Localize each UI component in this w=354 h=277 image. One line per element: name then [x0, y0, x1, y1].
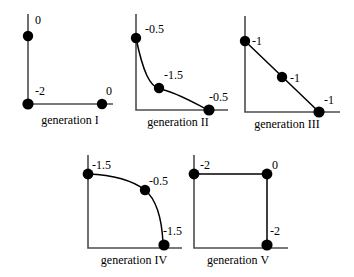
- figure-container: 0 -2 0 generation I -0.5 -1.5 -0.5 gener…: [0, 0, 354, 277]
- panel-generation-5: -2 0 -2 generation V: [189, 155, 288, 267]
- caption-generation-2: generation II: [147, 115, 209, 129]
- value-label-right-generation-2: -0.5: [209, 90, 228, 104]
- node-mid-generation-2: [154, 83, 164, 93]
- value-label-right-generation-5: -2: [270, 224, 280, 238]
- generations-figure: 0 -2 0 generation I -0.5 -1.5 -0.5 gener…: [0, 0, 354, 277]
- node-right-generation-5: [261, 239, 272, 250]
- value-label-mid-generation-3: -1: [290, 71, 300, 85]
- node-right-generation-1: [97, 99, 107, 109]
- node-top-generation-5: [189, 169, 200, 180]
- panel-generation-2: -0.5 -1.5 -0.5 generation II: [131, 14, 228, 129]
- value-label-top-generation-4: -1.5: [92, 158, 111, 172]
- value-label-mid-generation-2: -1.5: [164, 68, 183, 82]
- node-mid-generation-3: [277, 72, 287, 82]
- value-label-mid-generation-4: -0.5: [149, 174, 168, 188]
- value-label-origin-generation-1: -2: [35, 84, 45, 98]
- caption-generation-5: generation V: [207, 253, 269, 267]
- value-label-top-generation-1: 0: [35, 13, 41, 27]
- caption-generation-1: generation I: [41, 113, 99, 127]
- panel-generation-4: -1.5 -0.5 -1.5 generation IV: [83, 155, 182, 267]
- node-corner-generation-5: [262, 169, 273, 180]
- node-right-generation-3: [313, 106, 324, 117]
- panel-generation-1: 0 -2 0 generation I: [22, 13, 113, 127]
- node-top-generation-3: [240, 36, 250, 46]
- value-label-top-generation-5: -2: [200, 158, 210, 172]
- value-label-right-generation-1: 0: [106, 84, 112, 98]
- node-origin-generation-1: [22, 98, 33, 109]
- rectangle-path-generation-5: [194, 174, 267, 245]
- value-label-top-generation-2: -0.5: [145, 22, 164, 36]
- node-right-generation-4: [158, 239, 169, 250]
- value-label-right-generation-3: -1: [324, 93, 334, 107]
- value-label-top-generation-3: -1: [252, 34, 262, 48]
- node-top-generation-2: [131, 33, 141, 43]
- value-label-right-generation-4: -1.5: [163, 224, 182, 238]
- value-label-mid-generation-5: 0: [272, 158, 278, 172]
- panel-generation-3: -1 -1 -1 generation III: [240, 16, 340, 131]
- caption-generation-3: generation III: [254, 117, 320, 131]
- caption-generation-4: generation IV: [101, 253, 168, 267]
- node-right-generation-2: [203, 104, 214, 115]
- node-top-generation-1: [23, 31, 33, 41]
